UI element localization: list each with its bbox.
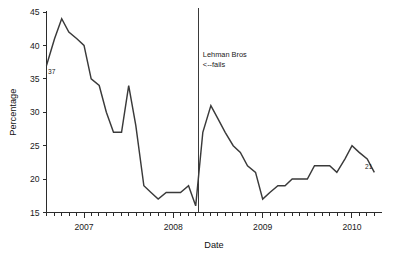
point-label-37: 37 [48,68,56,75]
x-tick-label-2010: 2010 [342,222,361,232]
y-tick-label-40: 40 [30,41,40,51]
x-tick-label-2007: 2007 [74,222,93,232]
line-chart: 152025303540452007200820092010DatePercen… [0,0,393,261]
y-tick-label-15: 15 [30,208,40,218]
x-axis-title: Date [204,240,223,250]
x-tick-label-2008: 2008 [164,222,183,232]
y-tick-label-45: 45 [30,7,40,17]
lehman-annotation-line-1: Lehman Bros [203,50,247,59]
point-label-21: 21 [365,163,373,170]
y-tick-label-25: 25 [30,141,40,151]
chart-container: 152025303540452007200820092010DatePercen… [0,0,393,261]
y-axis-title: Percentage [8,89,18,136]
x-tick-label-2009: 2009 [253,222,272,232]
y-tick-label-35: 35 [30,74,40,84]
y-tick-label-20: 20 [30,174,40,184]
data-series-line [47,19,375,206]
y-tick-label-30: 30 [30,107,40,117]
lehman-annotation-line-2: <--fails [203,60,226,69]
